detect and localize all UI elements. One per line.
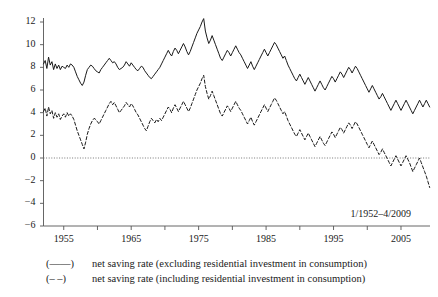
y-tick-label: −4 (16, 196, 36, 207)
y-tick-label: 8 (16, 60, 36, 71)
x-tick-label: 1965 (111, 233, 151, 244)
legend-label-excluding: net saving rate (excluding residential i… (92, 258, 367, 269)
series-line-including (44, 75, 430, 187)
y-tick-label: −6 (16, 219, 36, 230)
y-tick-label: 6 (16, 83, 36, 94)
legend-key-solid: (——) (46, 256, 92, 271)
y-tick-label: 2 (16, 128, 36, 139)
axes (40, 18, 430, 230)
legend-key-dashed: (– –) (46, 271, 92, 286)
y-tick-label: 4 (16, 106, 36, 117)
x-tick-label: 1995 (314, 233, 354, 244)
legend-item-including: (– –)net saving rate (including resident… (46, 271, 367, 286)
x-tick-label: 1985 (246, 233, 286, 244)
x-tick-label: 1955 (44, 233, 84, 244)
date-range-annotation: 1/1952–4/2009 (350, 208, 411, 219)
legend: (——)net saving rate (excluding residenti… (46, 256, 367, 286)
y-tick-label: −2 (16, 174, 36, 185)
data-series-group (44, 19, 430, 188)
y-tick-label: 12 (16, 15, 36, 26)
x-tick-label: 2005 (381, 233, 421, 244)
figure: 121086420−2−4−6 195519651975198519952005… (0, 0, 438, 297)
chart-canvas (0, 0, 438, 297)
legend-label-including: net saving rate (including residential i… (92, 273, 365, 284)
series-line-excluding (44, 19, 430, 114)
legend-item-excluding: (——)net saving rate (excluding residenti… (46, 256, 367, 271)
x-tick-label: 1975 (179, 233, 219, 244)
y-tick-label: 10 (16, 38, 36, 49)
y-tick-label: 0 (16, 151, 36, 162)
